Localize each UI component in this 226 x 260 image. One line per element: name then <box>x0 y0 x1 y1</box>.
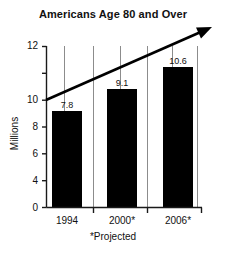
y-tick-label-4: 4 <box>16 175 38 186</box>
bar-value-label-2006: 10.6 <box>163 56 193 66</box>
y-axis-title: Millions <box>9 99 20 169</box>
x-tick-label-2000: 2000* <box>95 215 149 226</box>
x-tick-label-1994: 1994 <box>40 215 94 226</box>
bar-value-label-2000: 9.1 <box>107 78 137 88</box>
y-axis <box>42 46 47 208</box>
bar-2000 <box>107 89 137 207</box>
y-tick-label-0: 0 <box>16 202 38 213</box>
chart-footnote: *Projected <box>0 231 226 242</box>
bar-value-label-1994: 7.8 <box>52 100 82 110</box>
y-tick-label-12: 12 <box>16 40 38 51</box>
x-tick-label-2006: 2006* <box>151 215 205 226</box>
bar-1994 <box>52 111 82 207</box>
chart-container: Americans Age 80 and Over <box>0 0 226 260</box>
x-axis <box>47 208 203 214</box>
bar-2006 <box>163 67 193 207</box>
